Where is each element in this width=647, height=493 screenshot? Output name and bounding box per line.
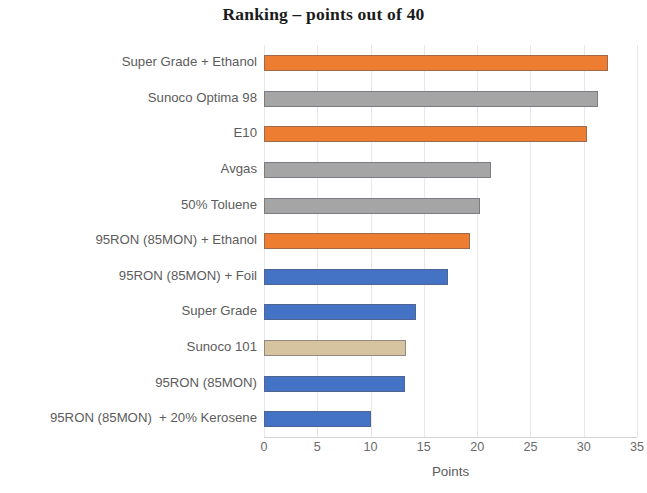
x-tick-label: 25 (510, 440, 550, 454)
category-label: Super Grade + Ethanol (0, 45, 257, 81)
bar-row[interactable] (264, 366, 637, 402)
bar-row[interactable] (264, 81, 637, 117)
category-label: E10 (0, 116, 257, 152)
category-label-text: 50% Toluene (0, 197, 257, 213)
bar-row[interactable] (264, 223, 637, 259)
bar-row[interactable] (264, 294, 637, 330)
plot-area (264, 45, 637, 437)
category-label: Sunoco Optima 98 (0, 81, 257, 117)
bar-row[interactable] (264, 116, 637, 152)
category-label: 50% Toluene (0, 188, 257, 224)
category-label-text: 95RON (85MON) (0, 375, 257, 391)
bar[interactable] (264, 91, 598, 107)
category-label: 95RON (85MON) + 20% Kerosene (0, 401, 257, 437)
x-tick-label: 30 (564, 440, 604, 454)
x-axis-title: Points (264, 464, 637, 479)
category-label: 95RON (85MON) + Ethanol (0, 223, 257, 259)
x-tick-label: 15 (404, 440, 444, 454)
x-tick-label: 5 (297, 440, 337, 454)
bar[interactable] (264, 233, 470, 249)
category-label-text: 95RON (85MON) + Foil (0, 268, 257, 284)
x-tick-label: 35 (617, 440, 647, 454)
bar-row[interactable] (264, 152, 637, 188)
category-label-text: Super Grade + Ethanol (0, 54, 257, 70)
x-axis-line (264, 437, 637, 438)
category-label-text: Avgas (0, 161, 257, 177)
category-label-text: E10 (0, 125, 257, 141)
bar-row[interactable] (264, 330, 637, 366)
bar[interactable] (264, 269, 448, 285)
category-label-text: Sunoco Optima 98 (0, 90, 257, 106)
bar-row[interactable] (264, 401, 637, 437)
category-label-text: 95RON (85MON) + 20% Kerosene (0, 410, 257, 426)
category-label: Super Grade (0, 294, 257, 330)
bar-row[interactable] (264, 45, 637, 81)
bar[interactable] (264, 55, 608, 71)
chart-title: Ranking – points out of 40 (0, 4, 647, 25)
bar[interactable] (264, 411, 371, 427)
bar[interactable] (264, 162, 491, 178)
category-label: 95RON (85MON) + Foil (0, 259, 257, 295)
x-tick-label: 0 (244, 440, 284, 454)
category-label: Sunoco 101 (0, 330, 257, 366)
bar[interactable] (264, 198, 480, 214)
category-label-text: 95RON (85MON) + Ethanol (0, 232, 257, 248)
category-label-text: Super Grade (0, 303, 257, 319)
category-label-text: Sunoco 101 (0, 339, 257, 355)
x-tick-label: 10 (351, 440, 391, 454)
bar[interactable] (264, 126, 587, 142)
gridline-35 (637, 45, 638, 437)
x-tick-label: 20 (457, 440, 497, 454)
bar[interactable] (264, 340, 406, 356)
bar[interactable] (264, 376, 405, 392)
bar-row[interactable] (264, 188, 637, 224)
category-label: 95RON (85MON) (0, 366, 257, 402)
bar-row[interactable] (264, 259, 637, 295)
category-label: Avgas (0, 152, 257, 188)
bar-chart: Ranking – points out of 40 Super Grade +… (0, 0, 647, 493)
bar[interactable] (264, 304, 416, 320)
